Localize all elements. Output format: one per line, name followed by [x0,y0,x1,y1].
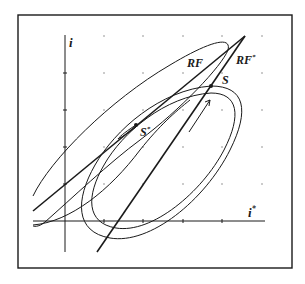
x-axis-label: i* [248,204,257,220]
ellipse-inner [92,93,235,229]
s-label: S [222,73,229,87]
point-s-star [134,123,138,127]
point-s [209,84,213,88]
y-axis-label: i [69,35,73,50]
rf-star-label: RF* [235,53,256,67]
s-star-label: S* [140,125,151,139]
axes [33,35,265,252]
phase-diagram: i i* RF RF* S S* [0,0,305,284]
rf-label: RF [186,56,203,70]
direction-arrow-icon [189,100,210,132]
